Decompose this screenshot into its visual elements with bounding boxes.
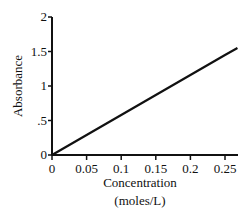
x-tick-label: 0.25 — [214, 161, 237, 176]
x-axis-title: Concentration — [103, 175, 177, 190]
y-tick-label: 0 — [41, 147, 48, 162]
y-axis: 0.511.52 — [31, 9, 52, 162]
x-tick-label: 0.1 — [113, 161, 129, 176]
x-axis-units: (moles/L) — [114, 193, 165, 208]
absorbance-chart: 0.511.52 00.050.10.150.20.25 Absorbance … — [0, 0, 251, 223]
data-line — [52, 48, 237, 155]
x-tick-label: 0 — [49, 161, 56, 176]
y-tick-label: 2 — [41, 9, 48, 24]
x-tick-label: 0.05 — [75, 161, 98, 176]
x-tick-label: 0.2 — [182, 161, 198, 176]
y-tick-label: .5 — [37, 113, 47, 128]
plot-area — [52, 48, 237, 155]
y-tick-label: 1 — [41, 78, 48, 93]
x-axis: 00.050.10.150.20.25 — [49, 155, 238, 176]
y-tick-label: 1.5 — [31, 44, 47, 59]
y-axis-title: Absorbance — [10, 55, 25, 117]
x-tick-label: 0.15 — [144, 161, 167, 176]
